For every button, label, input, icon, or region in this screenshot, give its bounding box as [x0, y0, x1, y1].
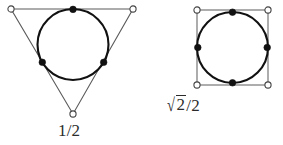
tangent-point-top	[70, 6, 77, 13]
square-tangent-point-top	[229, 9, 236, 16]
radicand: 2	[176, 95, 187, 113]
triangle-inscribed-circle	[38, 9, 109, 80]
square-label-denominator: 2	[191, 96, 200, 115]
square-tangent-point-left	[195, 44, 202, 51]
vertex-top-left	[8, 6, 14, 12]
vertex-top-right	[130, 6, 136, 12]
radical-group: √2	[166, 96, 186, 114]
square-corner-bottom-left	[194, 82, 200, 88]
square-ratio-label: √2/2	[166, 96, 200, 114]
square-tangent-point-bottom	[229, 80, 236, 87]
tangent-point-lower-right	[100, 59, 107, 66]
square-corner-top-left	[194, 7, 200, 13]
square-inscribed-circle	[197, 12, 268, 83]
tangent-point-lower-left	[39, 59, 46, 66]
geometry-figure-page: 1/2 √2/2	[0, 0, 283, 145]
square-corner-top-right	[265, 7, 271, 13]
square-figure	[194, 7, 271, 88]
triangle-outline	[11, 9, 133, 114]
square-corner-bottom-right	[265, 82, 271, 88]
triangle-ratio-label: 1/2	[58, 122, 80, 139]
square-tangent-point-right	[264, 44, 271, 51]
vertex-bottom	[70, 111, 76, 117]
radical-sign-icon: √	[167, 95, 175, 114]
figures-canvas	[0, 0, 283, 145]
triangle-figure	[8, 6, 136, 117]
